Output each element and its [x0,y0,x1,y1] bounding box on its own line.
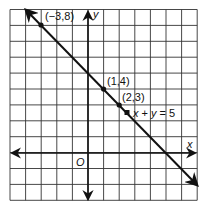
equation-plus: + [139,107,152,119]
point-label-neg3-8: (−3,8) [45,10,74,22]
equation-label: x + y = 5 [132,107,175,119]
point-label-2-3: (2,3) [122,91,145,103]
coordinate-plane: (−3,8) (1,4) (2,3) x + y = 5 y x O [0,0,205,212]
line-x-plus-y-equals-5 [26,10,197,185]
grid-lines [10,10,197,201]
point-1-4 [101,86,106,91]
origin-label: O [76,156,85,168]
point-label-1-4: (1,4) [107,75,130,87]
point-neg3-8 [38,22,43,27]
equation-rest: = 5 [157,107,176,119]
x-axis-label: x [186,138,193,150]
point-equation-marker [125,110,130,115]
point-2-3 [117,102,122,107]
